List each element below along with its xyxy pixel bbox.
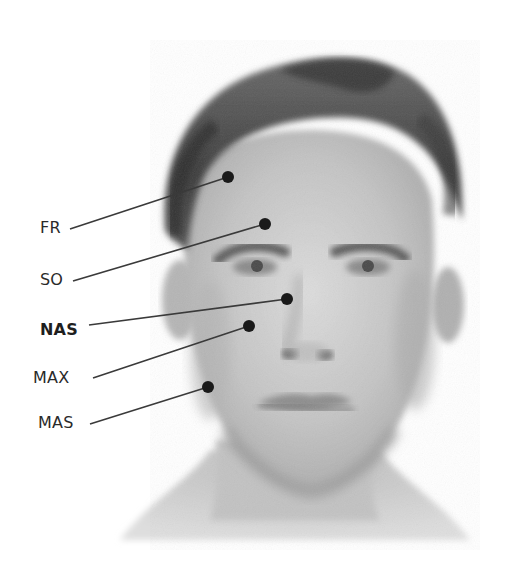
point-marker-max: [243, 320, 255, 332]
point-marker-so: [259, 218, 271, 230]
point-label-max: MAX: [33, 370, 69, 386]
point-label-mas: MAS: [38, 415, 74, 431]
point-label-so: SO: [40, 272, 63, 288]
point-marker-mas: [202, 381, 214, 393]
point-label-fr: FR: [40, 220, 61, 236]
face-photo: [0, 0, 520, 568]
point-marker-nas: [281, 293, 293, 305]
face-diagram: FRSONASMAXMAS: [0, 0, 520, 568]
point-label-nas: NAS: [40, 322, 78, 338]
point-marker-fr: [222, 171, 234, 183]
